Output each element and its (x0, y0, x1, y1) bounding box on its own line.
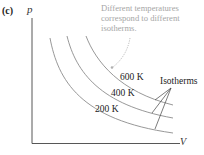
callout-line-400k (152, 88, 171, 113)
annotation-note: Different temperatures correspond to dif… (101, 3, 204, 33)
curve-label-400k: 400 K (111, 88, 135, 98)
x-axis-label: V (180, 136, 186, 147)
y-axis-label: p (27, 3, 33, 15)
isotherm-diagram: (c) p V Different temperatures correspon… (0, 0, 204, 155)
curve-label-600k: 600 K (120, 72, 144, 82)
isotherm-200k-curve (50, 38, 173, 133)
panel-label: (c) (2, 5, 13, 16)
annotation-arrow-dot (111, 66, 114, 69)
isotherms-callout-label: Isotherms (160, 76, 197, 86)
annotation-arrow (113, 38, 130, 67)
curve-label-200k: 200 K (95, 104, 119, 114)
